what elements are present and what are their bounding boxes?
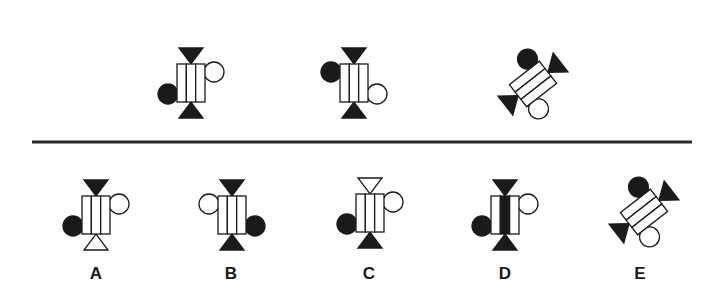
left-circle (199, 194, 219, 214)
left-circle (158, 84, 178, 104)
question-figure-3 (485, 36, 581, 131)
stripe (359, 64, 368, 102)
top-triangle (179, 48, 203, 64)
option-figure-e (596, 164, 692, 259)
stripe (196, 64, 205, 102)
stripe (101, 196, 110, 234)
stripe (218, 196, 227, 234)
stripe (375, 194, 384, 232)
puzzle-canvas: ABCDE (0, 0, 728, 307)
stripe (340, 64, 349, 102)
option-figure-b (199, 180, 265, 250)
stripe (91, 196, 100, 234)
stripe (500, 196, 509, 234)
left-circle (472, 216, 492, 236)
stripe (82, 196, 91, 234)
question-figure-2 (321, 48, 387, 118)
option-label-b: B (225, 264, 237, 283)
option-label-c: C (363, 264, 375, 283)
stripe (510, 196, 519, 234)
stripe (186, 64, 195, 102)
bottom-triangle (179, 102, 203, 118)
stripe (177, 64, 186, 102)
right-circle (383, 192, 403, 212)
option-figure-c (337, 178, 403, 248)
left-circle (321, 62, 341, 82)
right-circle (109, 194, 129, 214)
option-label-a: A (90, 264, 102, 283)
top-triangle (493, 180, 517, 196)
stripe (491, 196, 500, 234)
left-circle (63, 216, 83, 236)
top-triangle (220, 180, 244, 196)
right-circle (245, 216, 265, 236)
option-figure-d (472, 180, 538, 250)
right-circle (518, 194, 538, 214)
option-label-e: E (634, 264, 645, 283)
stripe (349, 64, 358, 102)
question-figure-1 (158, 48, 224, 118)
top-triangle (84, 180, 108, 196)
bottom-triangle (342, 102, 366, 118)
stripe (356, 194, 365, 232)
bottom-triangle (220, 234, 244, 250)
option-figure-a (63, 180, 129, 250)
stripe (365, 194, 374, 232)
option-label-d: D (499, 264, 511, 283)
bottom-triangle (493, 234, 517, 250)
bottom-triangle (358, 232, 382, 248)
stripe (227, 196, 236, 234)
top-triangle (342, 48, 366, 64)
top-triangle (358, 178, 382, 194)
bottom-triangle (84, 234, 108, 250)
left-circle (337, 214, 357, 234)
stripe (237, 196, 246, 234)
right-circle (204, 62, 224, 82)
right-circle (367, 84, 387, 104)
